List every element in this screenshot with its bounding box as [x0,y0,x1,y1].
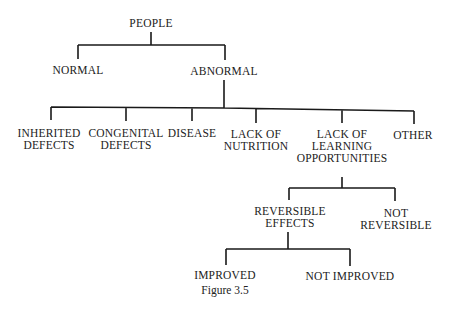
node-abnormal: ABNORMAL [190,65,257,77]
node-disease: DISEASE [168,127,217,139]
node-congenital-defects: CONGENITAL DEFECTS [88,127,163,151]
node-lack-of-learning-opportunities: LACK OF LEARNING OPPORTUNITIES [297,128,388,164]
node-not-improved: NOT IMPROVED [306,270,395,282]
node-lack-of-nutrition: LACK OF NUTRITION [224,128,288,152]
node-inherited-defects: INHERITED DEFECTS [17,127,80,151]
node-other: OTHER [393,129,432,141]
figure-caption: Figure 3.5 [201,284,248,296]
node-normal: NORMAL [52,64,103,76]
node-people: PEOPLE [129,17,172,29]
node-improved: IMPROVED [194,269,256,281]
node-not-reversible: NOT REVERSIBLE [360,207,432,231]
tree-diagram: PEOPLE NORMAL ABNORMAL INHERITED DEFECTS… [0,0,451,309]
node-reversible-effects: REVERSIBLE EFFECTS [254,205,326,229]
